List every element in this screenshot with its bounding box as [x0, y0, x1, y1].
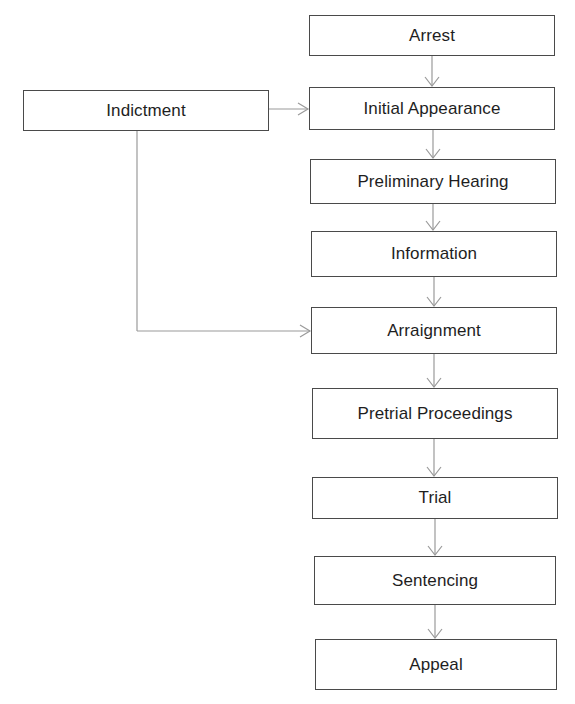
node-information: Information: [311, 231, 557, 277]
node-indictment: Indictment: [23, 90, 269, 131]
arrow-indictment-to-initial-appearance: [268, 103, 308, 115]
node-label: Initial Appearance: [364, 99, 501, 119]
arrow-trial-to-sentencing: [428, 518, 442, 555]
node-label: Indictment: [106, 101, 185, 121]
node-label: Trial: [419, 488, 452, 508]
node-arrest: Arrest: [309, 15, 555, 56]
node-label: Sentencing: [392, 571, 478, 591]
node-trial: Trial: [312, 477, 558, 519]
arrow-information-to-arraignment: [427, 276, 441, 306]
arrow-arrest-to-initial-appearance: [425, 55, 439, 86]
arrow-initial-appearance-to-preliminary-hearing: [426, 129, 440, 158]
node-label: Appeal: [409, 655, 463, 675]
node-label: Pretrial Proceedings: [357, 404, 512, 424]
node-label: Preliminary Hearing: [357, 172, 508, 192]
node-preliminary-hearing: Preliminary Hearing: [310, 159, 556, 204]
node-arraignment: Arraignment: [311, 307, 557, 354]
arrow-arraignment-to-pretrial-proceedings: [427, 353, 441, 387]
arrow-sentencing-to-appeal: [428, 604, 442, 638]
flowchart-canvas: Arrest Initial Appearance Preliminary He…: [0, 0, 575, 704]
arrow-preliminary-hearing-to-information: [426, 203, 440, 230]
arrow-indictment-to-arraignment: [137, 130, 310, 337]
node-pretrial-proceedings: Pretrial Proceedings: [312, 388, 558, 439]
arrow-pretrial-proceedings-to-trial: [427, 438, 441, 476]
node-initial-appearance: Initial Appearance: [309, 87, 555, 130]
node-label: Arrest: [409, 26, 455, 46]
node-sentencing: Sentencing: [314, 556, 556, 605]
node-label: Information: [391, 244, 477, 264]
node-appeal: Appeal: [315, 639, 557, 690]
node-label: Arraignment: [387, 321, 481, 341]
